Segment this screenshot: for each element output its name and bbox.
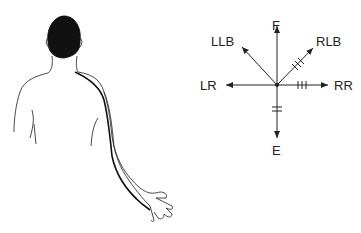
label-F: F (272, 18, 280, 33)
vector-diagram (226, 26, 328, 138)
arrow-LLB (242, 47, 277, 85)
head-hair (48, 16, 81, 58)
label-LLB: LLB (211, 34, 234, 49)
label-RR: RR (334, 78, 353, 93)
person-figure (14, 16, 173, 222)
label-LR: LR (200, 78, 217, 93)
label-E: E (272, 143, 281, 158)
diagram-canvas: F LLB RLB LR RR E (0, 0, 361, 233)
label-RLB: RLB (316, 34, 341, 49)
